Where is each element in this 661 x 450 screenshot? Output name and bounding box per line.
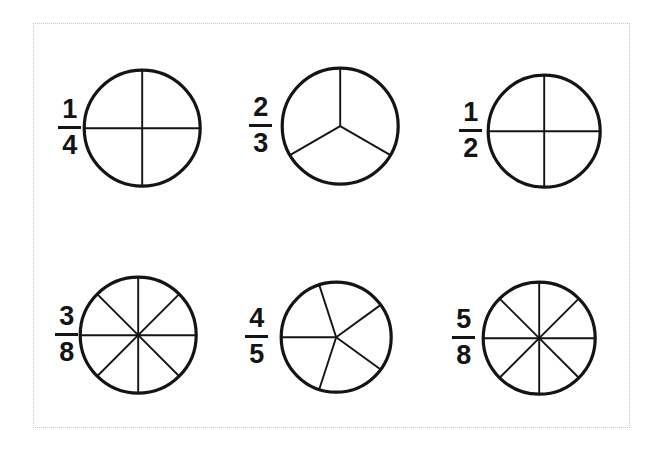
fraction-one-half: 12	[459, 70, 605, 192]
fraction-circle	[483, 70, 605, 192]
fraction-circle	[276, 277, 396, 397]
fraction-denominator: 8	[456, 341, 471, 369]
worksheet-page: 142312384558	[0, 0, 661, 450]
fraction-circle-wrap	[276, 277, 396, 397]
fraction-numerator: 1	[62, 96, 77, 125]
fraction-bar	[452, 336, 475, 339]
fraction-denominator: 4	[62, 131, 77, 159]
fraction-two-thirds: 23	[249, 63, 403, 189]
fraction-five-eighths: 58	[452, 277, 600, 399]
fraction-numerator: 4	[249, 305, 264, 334]
fraction-numerator: 3	[59, 303, 74, 332]
fraction-bar	[249, 124, 272, 127]
fraction-circle	[478, 277, 600, 399]
fraction-circle-wrap	[277, 63, 403, 189]
fraction-denominator: 8	[59, 338, 74, 366]
fraction-three-eighths: 38	[55, 272, 201, 398]
fraction-bar	[58, 126, 81, 129]
fraction-bar	[459, 129, 482, 132]
fraction-circle-wrap	[478, 277, 600, 399]
fraction-label: 45	[245, 305, 268, 368]
fraction-label: 12	[459, 99, 482, 162]
fraction-denominator: 3	[253, 129, 268, 157]
fraction-label: 23	[249, 94, 272, 157]
fraction-denominator: 5	[249, 340, 264, 368]
fraction-label: 14	[58, 96, 81, 159]
fraction-circle-wrap	[75, 272, 201, 398]
fraction-denominator: 2	[463, 134, 478, 162]
fraction-bar	[245, 335, 268, 338]
fraction-circle	[75, 272, 201, 398]
fraction-label: 58	[452, 306, 475, 369]
fraction-circle-wrap	[483, 70, 605, 192]
fraction-circle-wrap	[79, 65, 205, 191]
fraction-four-fifths: 45	[245, 277, 396, 397]
fraction-numerator: 2	[253, 94, 268, 123]
fraction-numerator: 1	[463, 99, 478, 128]
fraction-numerator: 5	[456, 306, 471, 335]
fraction-circle	[277, 63, 403, 189]
fraction-one-quarter: 14	[58, 65, 205, 191]
fraction-circle	[79, 65, 205, 191]
